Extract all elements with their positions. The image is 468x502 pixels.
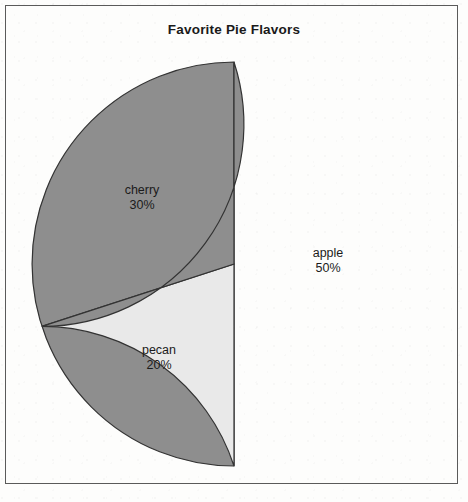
pie-label-apple-percent: 50% [313, 261, 344, 276]
pie-label-cherry-percent: 30% [125, 198, 160, 213]
pie-label-pecan: pecan 20% [142, 343, 176, 373]
pie-label-apple: apple 50% [313, 246, 344, 276]
pie-label-apple-name: apple [313, 246, 344, 260]
pie-graphic [0, 0, 468, 502]
pie-label-pecan-percent: 20% [142, 358, 176, 373]
pie-label-cherry: cherry 30% [125, 183, 160, 213]
pie-label-cherry-name: cherry [125, 183, 160, 197]
pie-slices [32, 62, 244, 466]
pie-chart-figure: Favorite Pie Flavors apple 50% cherry 30… [0, 0, 468, 502]
pie-label-pecan-name: pecan [142, 343, 176, 357]
